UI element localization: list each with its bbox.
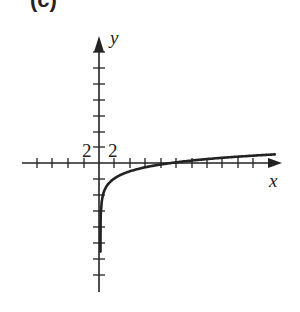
- x-axis-arrow-icon: [268, 158, 282, 168]
- y-axis-label: y: [108, 27, 119, 48]
- y-axis: [93, 36, 105, 292]
- x-axis-label: x: [268, 170, 278, 191]
- part-label: (c): [30, 0, 57, 13]
- log-curve: [101, 154, 275, 251]
- y-axis-arrow-icon: [94, 36, 104, 52]
- chart-canvas: 2 2 x y: [0, 0, 300, 312]
- figure: (c) 2 2 x y: [0, 0, 300, 312]
- x-tick-label: 2: [108, 140, 118, 161]
- y-tick-label: 2: [82, 140, 92, 161]
